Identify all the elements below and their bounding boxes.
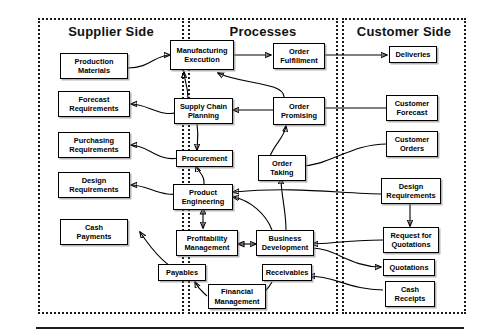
edge-supply-chain-planning-to-manufacturing-execution	[184, 72, 188, 99]
edge-supply-chain-planning-to-procurement	[197, 124, 198, 150]
edge-financial-management-to-payables	[195, 282, 207, 296]
node-order-fulfillment[interactable]: Order Fulfillment	[273, 43, 325, 69]
edge-business-development-to-order-taking	[281, 178, 286, 230]
node-manufacturing-execution[interactable]: Manufacturing Execution	[170, 40, 234, 70]
node-procurement[interactable]: Procurement	[176, 150, 233, 167]
edge-business-development-to-quotations	[312, 248, 381, 267]
edge-order-taking-to-order-promising	[270, 126, 286, 156]
node-purchasing-requirements[interactable]: Purchasing Requirements	[58, 132, 130, 158]
node-profitability-management[interactable]: Profitability Management	[176, 230, 238, 256]
edge-business-development-to-product-engineering	[233, 197, 272, 230]
node-request-for-quotations[interactable]: Request for Quotations	[383, 227, 439, 253]
node-design-requirements-supplier[interactable]: Design Requirements	[58, 172, 130, 198]
diagram-canvas: Supplier Side Processes Customer Side	[0, 0, 486, 335]
node-deliveries[interactable]: Deliveries	[389, 46, 437, 63]
node-cash-payments[interactable]: Cash Payments	[60, 219, 128, 245]
node-customer-orders[interactable]: Customer Orders	[386, 131, 438, 157]
node-supply-chain-planning[interactable]: Supply Chain Planning	[174, 98, 233, 124]
node-financial-management[interactable]: Financial Management	[208, 284, 266, 309]
node-order-promising[interactable]: Order Promising	[273, 97, 325, 125]
node-order-taking[interactable]: Order Taking	[258, 155, 306, 181]
edge-customer-orders-to-order-taking	[300, 144, 387, 166]
node-customer-forecast[interactable]: Customer Forecast	[386, 95, 438, 121]
node-business-development[interactable]: Business Development	[256, 230, 314, 256]
edge-cash-receipts-to-receivables	[309, 276, 383, 290]
node-cash-receipts[interactable]: Cash Receipts	[385, 281, 435, 307]
edge-procurement-to-purchasing-requirements	[131, 145, 178, 159]
edge-request-for-quotations-to-business-development	[312, 240, 383, 244]
edge-supply-chain-planning-to-forecast-requirements	[131, 104, 180, 113]
node-production-materials[interactable]: Production Materials	[60, 53, 128, 79]
edge-customer-design-requirements-to-product-engineering	[233, 190, 385, 194]
node-forecast-requirements[interactable]: Forecast Requirements	[58, 91, 130, 117]
node-payables[interactable]: Payables	[158, 264, 206, 281]
node-design-requirements-customer[interactable]: Design Requirements	[381, 178, 441, 204]
edge-production-materials-to-manufacturing-execution	[128, 55, 170, 68]
node-receivables[interactable]: Receivables	[262, 264, 312, 281]
edge-order-promising-to-manufacturing-execution	[218, 73, 284, 97]
node-quotations[interactable]: Quotations	[383, 259, 435, 276]
node-product-engineering[interactable]: Product Engineering	[173, 184, 233, 210]
